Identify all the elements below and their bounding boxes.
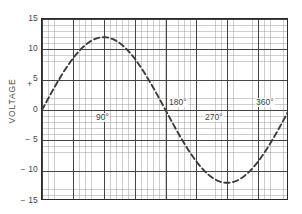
plot-area: 90° 180° 270° 360° bbox=[41, 18, 288, 200]
sine-voltage-chart: 15 10 5 0 − 5 − 10 − 15 VOLTAGE + 90° 18… bbox=[0, 0, 302, 214]
angle-label-180: 180° bbox=[168, 98, 188, 107]
sine-curve-path bbox=[42, 37, 288, 183]
sine-curve bbox=[42, 19, 288, 200]
angle-label-270: 270° bbox=[204, 113, 224, 122]
angle-label-90: 90° bbox=[95, 113, 110, 122]
y-axis-tick-labels: 15 10 5 0 − 5 − 10 − 15 bbox=[0, 0, 38, 214]
polarity-plus-sign: + bbox=[27, 79, 32, 89]
y-axis-title: VOLTAGE bbox=[7, 71, 17, 131]
y-tick-15: 15 bbox=[4, 14, 38, 23]
y-tick-neg10: − 10 bbox=[4, 165, 38, 174]
angle-label-360: 360° bbox=[255, 98, 275, 107]
y-tick-neg15: − 15 bbox=[4, 196, 38, 205]
y-tick-neg5: − 5 bbox=[4, 135, 38, 144]
y-tick-10: 10 bbox=[4, 44, 38, 53]
